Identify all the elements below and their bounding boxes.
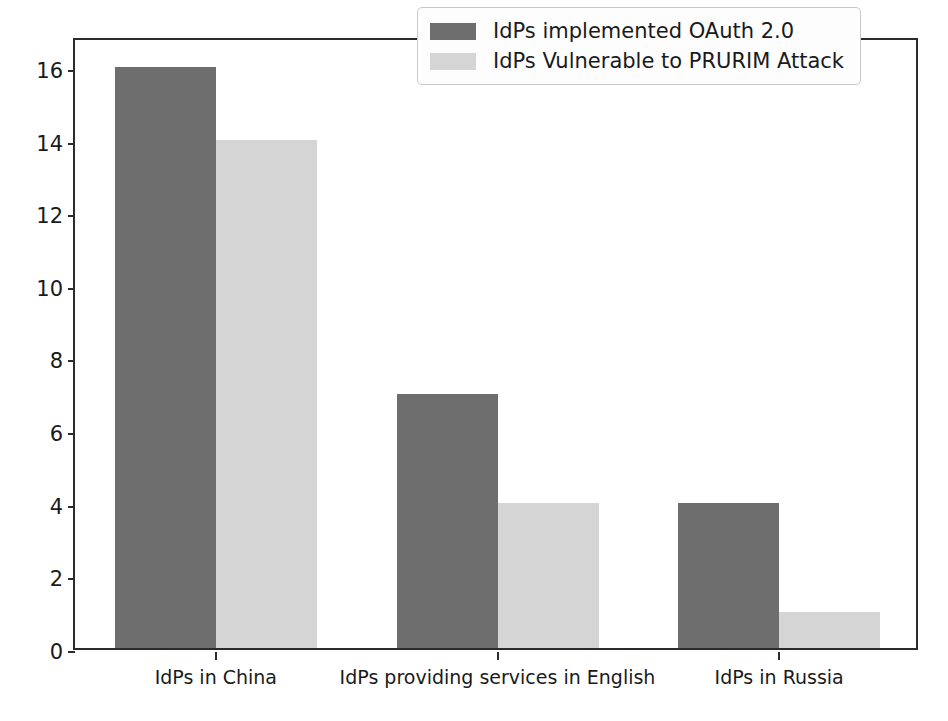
y-tick-mark xyxy=(68,215,75,217)
bar xyxy=(216,140,317,648)
y-tick-mark xyxy=(68,288,75,290)
chart-legend: IdPs implemented OAuth 2.0IdPs Vulnerabl… xyxy=(417,7,861,85)
y-tick-mark xyxy=(68,506,75,508)
x-tick-mark xyxy=(497,652,499,660)
y-tick-label: 0 xyxy=(3,638,63,666)
legend-label: IdPs implemented OAuth 2.0 xyxy=(493,18,794,44)
bar xyxy=(397,394,498,648)
y-tick-mark xyxy=(68,578,75,580)
y-tick-label: 2 xyxy=(3,565,63,593)
x-tick-label: IdPs in Russia xyxy=(549,666,948,688)
bar xyxy=(115,67,216,648)
legend-label: IdPs Vulnerable to PRURIM Attack xyxy=(493,48,844,74)
y-tick-label: 6 xyxy=(3,420,63,448)
y-tick-label: 14 xyxy=(3,130,63,158)
legend-item: IdPs Vulnerable to PRURIM Attack xyxy=(430,46,844,76)
y-tick-label: 10 xyxy=(3,275,63,303)
y-tick-label: 4 xyxy=(3,493,63,521)
y-tick-label: 12 xyxy=(3,202,63,230)
y-tick-mark xyxy=(68,70,75,72)
legend-item: IdPs implemented OAuth 2.0 xyxy=(430,16,844,46)
legend-swatch-icon xyxy=(430,23,476,40)
y-tick-mark xyxy=(68,433,75,435)
legend-swatch-icon xyxy=(430,53,476,70)
y-tick-label: 8 xyxy=(3,347,63,375)
x-tick-mark xyxy=(778,652,780,660)
bar xyxy=(779,612,880,648)
x-tick-mark xyxy=(215,652,217,660)
y-tick-mark xyxy=(68,360,75,362)
y-tick-mark xyxy=(68,651,75,653)
bar-chart-figure: 0246810121416 IdPs in ChinaIdPs providin… xyxy=(0,0,948,721)
bar xyxy=(498,503,599,648)
y-tick-label: 16 xyxy=(3,57,63,85)
bar xyxy=(678,503,779,648)
plot-area: 0246810121416 IdPs in ChinaIdPs providin… xyxy=(73,38,918,650)
y-tick-mark xyxy=(68,143,75,145)
